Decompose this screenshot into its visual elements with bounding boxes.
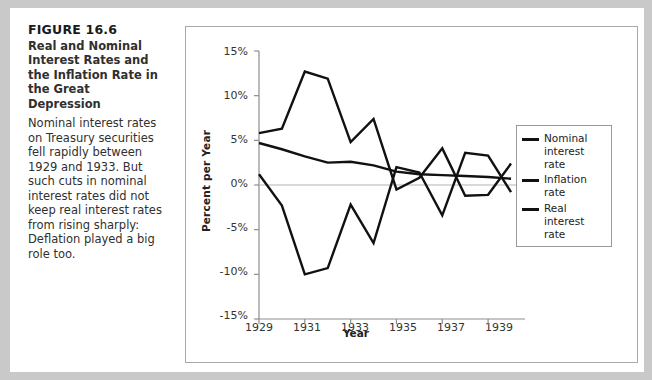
- figure-description: Nominal interest rates on Treasury secur…: [28, 116, 164, 261]
- legend-label: Inflation rate: [544, 173, 606, 199]
- legend-item-inflation-rate: Inflation rate: [522, 173, 606, 199]
- legend-item-real-interest-rate: Real interest rate: [522, 202, 606, 240]
- legend-line-swatch-icon: [522, 208, 539, 211]
- legend-label: Real interest rate: [544, 202, 606, 240]
- figure-title: Real and Nominal Interest Rates and the …: [28, 39, 164, 111]
- legend-line-swatch-icon: [522, 179, 539, 182]
- chart-plot-area: Percent per Year Year 15% 10% 5% 0% -5% …: [186, 27, 639, 364]
- legend-item-nominal-interest-rate: Nominal interest rate: [522, 132, 606, 170]
- figure-caption: FIGURE 16.6 Real and Nominal Interest Ra…: [28, 22, 164, 261]
- figure-page: FIGURE 16.6 Real and Nominal Interest Ra…: [10, 8, 644, 372]
- chart-frame: Percent per Year Year 15% 10% 5% 0% -5% …: [185, 26, 638, 363]
- figure-number: FIGURE 16.6: [28, 22, 164, 37]
- legend-label: Nominal interest rate: [544, 132, 606, 170]
- legend-line-swatch-icon: [522, 138, 539, 141]
- chart-legend: Nominal interest rate Inflation rate Rea…: [516, 125, 612, 247]
